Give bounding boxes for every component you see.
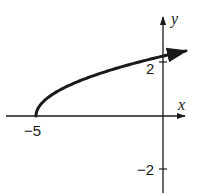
x-axis-label: x bbox=[177, 96, 185, 113]
y-tick-label-2: 2 bbox=[146, 60, 154, 77]
x-tick-label-neg5: −5 bbox=[24, 122, 41, 139]
y-tick-label-neg2: −2 bbox=[137, 161, 154, 178]
function-graph: y x −5 2 −2 bbox=[0, 0, 210, 193]
y-axis-label: y bbox=[169, 10, 179, 28]
